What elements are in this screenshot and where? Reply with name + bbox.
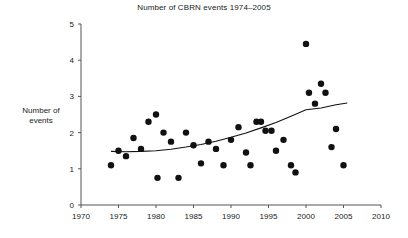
- data-point: [333, 126, 339, 132]
- data-point: [262, 128, 268, 134]
- axes: [81, 24, 381, 205]
- data-point: [115, 148, 121, 154]
- y-tick-label: 1: [70, 165, 75, 174]
- data-point: [247, 162, 253, 168]
- data-point: [138, 146, 144, 152]
- chart-page: Number of CBRN events 1974–2005 Number o…: [0, 0, 408, 238]
- data-point: [306, 90, 312, 96]
- data-point: [288, 162, 294, 168]
- x-tick-label: 1985: [185, 212, 203, 221]
- data-point: [168, 138, 174, 144]
- data-point: [322, 90, 328, 96]
- x-tick-label: 2005: [335, 212, 353, 221]
- data-point: [312, 100, 318, 106]
- data-point: [340, 162, 346, 168]
- data-point: [228, 137, 234, 143]
- y-tick-label: 4: [70, 56, 75, 65]
- data-point: [292, 169, 298, 175]
- y-tick-label: 2: [70, 129, 75, 138]
- data-points: [108, 41, 347, 181]
- data-point: [280, 137, 286, 143]
- data-point: [318, 81, 324, 87]
- y-tick-label: 0: [70, 201, 75, 210]
- data-point: [108, 162, 114, 168]
- data-point: [243, 149, 249, 155]
- x-axis-ticks: 197019751980198519901995200020052010: [72, 205, 390, 221]
- data-point: [268, 128, 274, 134]
- data-point: [213, 146, 219, 152]
- data-point: [303, 41, 309, 47]
- data-point: [130, 135, 136, 141]
- x-tick-label: 1975: [110, 212, 128, 221]
- x-tick-label: 1990: [222, 212, 240, 221]
- data-point: [183, 129, 189, 135]
- data-point: [190, 142, 196, 148]
- data-point: [205, 138, 211, 144]
- trend-line: [111, 103, 347, 152]
- x-tick-label: 2000: [297, 212, 315, 221]
- y-axis-ticks: 012345: [70, 20, 81, 210]
- y-tick-label: 3: [70, 92, 75, 101]
- data-point: [160, 129, 166, 135]
- scatter-plot: 012345 197019751980198519901995200020052…: [0, 0, 408, 238]
- data-point: [198, 160, 204, 166]
- data-point: [220, 162, 226, 168]
- data-point: [235, 124, 241, 130]
- data-point: [145, 119, 151, 125]
- x-tick-label: 2010: [372, 212, 390, 221]
- x-tick-label: 1970: [72, 212, 90, 221]
- y-tick-label: 5: [70, 20, 75, 29]
- data-point: [123, 153, 129, 159]
- data-point: [153, 111, 159, 117]
- data-point: [175, 175, 181, 181]
- trend-line-path: [111, 103, 347, 152]
- data-point: [273, 148, 279, 154]
- data-point: [328, 144, 334, 150]
- data-point: [154, 175, 160, 181]
- data-point: [258, 119, 264, 125]
- x-tick-label: 1995: [260, 212, 278, 221]
- x-tick-label: 1980: [147, 212, 165, 221]
